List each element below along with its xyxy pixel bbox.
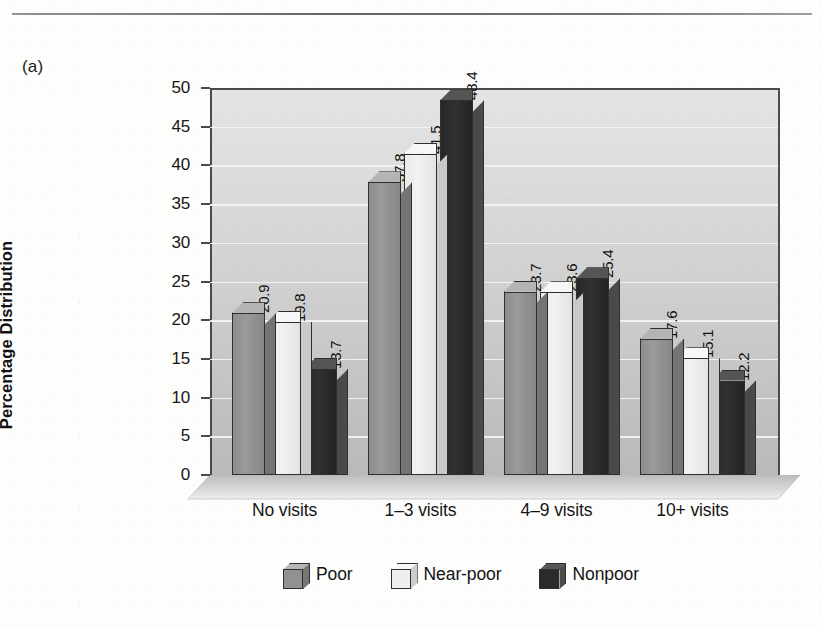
y-tick-mark bbox=[201, 203, 210, 205]
gridline bbox=[210, 243, 778, 245]
y-tick-mark bbox=[201, 164, 210, 166]
x-axis-label: 10+ visits bbox=[613, 500, 773, 521]
gridline bbox=[210, 204, 778, 206]
legend-label: Near-poor bbox=[424, 564, 502, 585]
bar-poor-0 bbox=[232, 313, 265, 475]
bar-front-face bbox=[232, 313, 265, 475]
bar-front-face bbox=[640, 339, 673, 475]
y-tick-label: 40 bbox=[138, 155, 190, 175]
bar-side-face bbox=[401, 182, 412, 475]
y-tick-label: 45 bbox=[138, 117, 190, 137]
bar-front-face bbox=[368, 182, 401, 475]
y-tick-label: 15 bbox=[138, 349, 190, 369]
swatch-front-face bbox=[283, 569, 303, 589]
near-poor-swatch-icon bbox=[391, 563, 413, 585]
poor-swatch-icon bbox=[283, 563, 305, 585]
legend-item-poor[interactable]: Poor bbox=[283, 563, 353, 585]
nonpoor-swatch-icon bbox=[539, 563, 561, 585]
bar-side-face bbox=[537, 292, 548, 475]
y-tick-label: 30 bbox=[138, 233, 190, 253]
gridline bbox=[210, 127, 778, 129]
bar-poor-3 bbox=[640, 339, 673, 475]
legend-item-nonpoor[interactable]: Nonpoor bbox=[539, 563, 638, 585]
bar-side-face bbox=[609, 278, 620, 475]
y-tick-label: 25 bbox=[138, 272, 190, 292]
bar-side-face bbox=[437, 154, 448, 475]
y-tick-mark bbox=[201, 358, 210, 360]
legend-item-near-poor[interactable]: Near-poor bbox=[391, 563, 502, 585]
swatch-front-face bbox=[391, 569, 411, 589]
legend: PoorNear-poorNonpoor bbox=[283, 563, 677, 585]
bar-side-face bbox=[265, 313, 276, 475]
gridline bbox=[210, 165, 778, 167]
y-tick-mark bbox=[201, 126, 210, 128]
y-tick-label: 10 bbox=[138, 388, 190, 408]
bar-side-face bbox=[473, 100, 484, 475]
y-tick-label: 35 bbox=[138, 194, 190, 214]
y-tick-label: 20 bbox=[138, 310, 190, 330]
y-tick-mark bbox=[201, 281, 210, 283]
y-tick-mark bbox=[201, 474, 210, 476]
y-tick-mark bbox=[201, 242, 210, 244]
y-tick-label: 0 bbox=[138, 465, 190, 485]
bar-side-face bbox=[337, 369, 348, 475]
y-tick-mark bbox=[201, 87, 210, 89]
legend-label: Nonpoor bbox=[572, 564, 638, 585]
legend-label: Poor bbox=[316, 564, 353, 585]
y-tick-mark bbox=[201, 397, 210, 399]
bar-chart: 05101520253035404550 20.919.813.737.841.… bbox=[0, 0, 822, 628]
bar-front-face bbox=[504, 292, 537, 475]
gridline bbox=[210, 282, 778, 284]
floor-polygon-icon bbox=[188, 475, 800, 501]
y-tick-label: 5 bbox=[138, 426, 190, 446]
chart-floor-3d bbox=[188, 475, 800, 501]
y-tick-mark bbox=[201, 319, 210, 321]
bar-side-face bbox=[709, 358, 720, 475]
bar-side-face bbox=[301, 322, 312, 475]
bar-side-face bbox=[573, 292, 584, 475]
bar-side-face bbox=[745, 381, 756, 475]
swatch-front-face bbox=[539, 569, 559, 589]
bar-side-face bbox=[673, 339, 684, 475]
bar-poor-1 bbox=[368, 182, 401, 475]
y-tick-mark bbox=[201, 435, 210, 437]
bar-poor-2 bbox=[504, 292, 537, 475]
y-tick-label: 50 bbox=[138, 78, 190, 98]
